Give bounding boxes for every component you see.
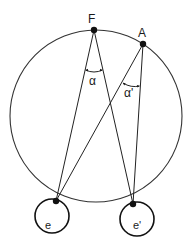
label-left-eye: e — [45, 219, 51, 231]
alpha-arc — [86, 70, 103, 72]
line-F-to-e-prime — [94, 30, 133, 204]
line-F-to-e — [56, 30, 94, 201]
line-A-to-e — [56, 44, 143, 201]
right-eye-node — [130, 201, 136, 207]
vieth-muller-circle — [10, 30, 182, 202]
point-F — [91, 27, 97, 33]
label-A: A — [138, 26, 146, 40]
label-F: F — [88, 12, 95, 26]
horopter-diagram: F A α α' e e' — [0, 0, 192, 250]
line-A-to-e-prime — [133, 44, 143, 204]
left-eye-circle — [35, 199, 69, 233]
label-right-eye: e' — [133, 219, 141, 231]
label-alpha: α — [89, 74, 96, 88]
point-A — [140, 41, 146, 47]
label-alpha-prime: α' — [124, 86, 133, 100]
left-eye-node — [53, 198, 59, 204]
